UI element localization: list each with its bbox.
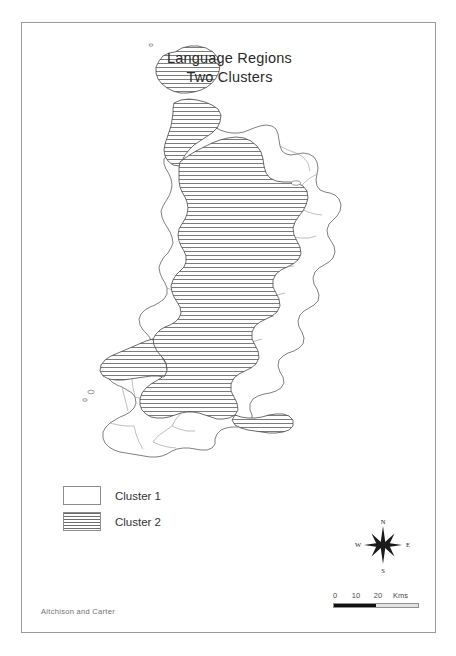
map-figure: Language Regions Two Clusters Cluster 1 …	[0, 0, 456, 656]
scale-bar-graphic	[333, 603, 419, 608]
anglesey-hatched-area	[156, 46, 220, 93]
scale-tick-20: 20	[374, 591, 382, 600]
legend-swatch-cluster-1	[63, 486, 101, 505]
south-hatched-tongue	[232, 414, 293, 433]
legend-item-cluster-1[interactable]: Cluster 1	[63, 484, 233, 507]
legend-item-cluster-2[interactable]: Cluster 2	[63, 510, 233, 533]
compass-label-west: W	[355, 541, 362, 548]
map-legend: Cluster 1 Cluster 2	[63, 484, 233, 536]
compass-label-east: E	[406, 541, 410, 548]
scale-tick-0: 0	[333, 591, 337, 600]
scale-units-label: Kms	[393, 591, 408, 600]
legend-swatch-cluster-2	[63, 512, 101, 531]
map-neatline-frame: Language Regions Two Clusters Cluster 1 …	[21, 22, 436, 633]
scale-segment-empty	[376, 604, 418, 607]
scale-bar-labels: 0 10 20 Kms	[333, 591, 433, 602]
legend-label-cluster-1: Cluster 1	[115, 490, 161, 502]
compass-center-dot	[381, 543, 384, 546]
compass-label-north: N	[381, 518, 386, 525]
scale-bar: 0 10 20 Kms	[333, 591, 433, 608]
map-attribution: Aitchison and Carter	[41, 607, 115, 616]
legend-label-cluster-2: Cluster 2	[115, 516, 161, 528]
compass-rose: N E S W	[352, 517, 414, 575]
scale-segment-filled	[334, 604, 376, 607]
compass-label-south: S	[381, 567, 385, 574]
scale-tick-10: 10	[352, 591, 360, 600]
